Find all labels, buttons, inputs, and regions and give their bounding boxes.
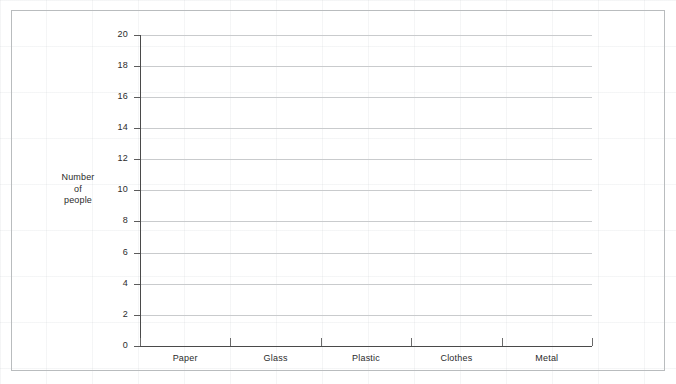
chart-page: Number of people 20181614121086420 Paper…: [0, 0, 676, 384]
y-tick-label: 16: [104, 91, 128, 101]
y-tick-label: 20: [104, 29, 128, 39]
y-axis-title-line-3: people: [42, 195, 114, 207]
x-tick-mark: [592, 338, 593, 346]
y-tick-label: 8: [104, 215, 128, 225]
x-category-label: Paper: [173, 353, 198, 363]
y-tick-label: 2: [104, 309, 128, 319]
y-tick-label: 14: [104, 122, 128, 132]
y-tick-label: 4: [104, 278, 128, 288]
y-tick-label: 18: [104, 60, 128, 70]
x-category-label: Clothes: [440, 353, 472, 363]
x-category-label: Metal: [535, 353, 558, 363]
y-tick-label: 0: [104, 340, 128, 350]
y-tick-label: 6: [104, 247, 128, 257]
x-category-label: Plastic: [352, 353, 380, 363]
x-category-label: Glass: [264, 353, 288, 363]
y-tick-label: 12: [104, 153, 128, 163]
plot-area: [140, 35, 592, 347]
x-axis-line: [140, 346, 592, 347]
bar-chart: Number of people 20181614121086420 Paper…: [0, 0, 676, 384]
y-tick-label: 10: [104, 184, 128, 194]
y-axis-title-line-1: Number: [42, 172, 114, 184]
